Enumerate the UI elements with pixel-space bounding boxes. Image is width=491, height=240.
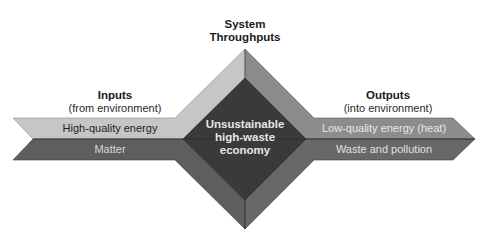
title-line-1: System [195,18,295,31]
output-waste-label: Waste and pollution [308,139,460,160]
outputs-heading: Outputs [333,89,443,102]
input-matter-label: Matter [40,139,180,160]
economy-line-2: high-waste [195,131,295,144]
title-line-2: Throughputs [195,31,295,44]
inputs-subheading: (from environment) [60,102,170,115]
outputs-subheading: (into environment) [333,102,443,115]
inputs-label: Inputs (from environment) [60,89,170,115]
economy-line-1: Unsustainable [195,118,295,131]
economy-label: Unsustainable high-waste economy [195,118,295,157]
economy-line-3: economy [195,144,295,157]
inputs-heading: Inputs [60,89,170,102]
system-throughputs-title: System Throughputs [195,18,295,44]
output-heat-label: Low-quality energy (heat) [308,118,460,139]
input-energy-label: High-quality energy [40,118,180,139]
outputs-label: Outputs (into environment) [333,89,443,115]
